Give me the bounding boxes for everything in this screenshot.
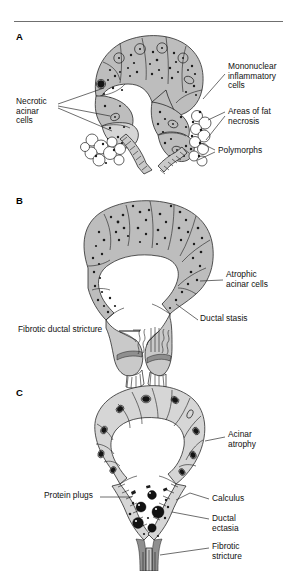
- panel-c-fibrotic-stricture: [136, 539, 162, 571]
- panel-letter-c: C: [16, 387, 23, 398]
- panel-c-acinar-ring: [95, 386, 205, 484]
- label-acinar-atrophy: Acinar atrophy: [228, 430, 290, 449]
- label-ductal-stasis: Ductal stasis: [200, 314, 290, 324]
- label-areas-of-fat-necrosis: Areas of fat necrosis: [228, 107, 292, 126]
- label-polymorphs: Polymorphs: [218, 146, 290, 156]
- panel-letter-a: A: [16, 31, 23, 42]
- panel-c-illustration: [95, 386, 225, 571]
- label-calculus: Calculus: [212, 494, 282, 504]
- panel-b-illustration: [84, 201, 223, 389]
- label-fibrotic-stricture: Fibrotic stricture: [212, 542, 272, 561]
- label-atrophic-acinar-cells: Atrophic acinar cells: [226, 270, 290, 289]
- label-fibrotic-ductal-stricture: Fibrotic ductal stricture: [18, 325, 122, 335]
- panel-letter-b: B: [16, 195, 23, 206]
- label-protein-plugs: Protein plugs: [44, 491, 104, 501]
- label-mononuclear-inflammatory-cells: Mononuclear inflammatory cells: [228, 62, 293, 91]
- label-ductal-ectasia: Ductal ectasia: [212, 514, 272, 533]
- panel-a-left-limb: [81, 96, 153, 174]
- panel-a-illustration: [58, 36, 225, 174]
- panel-b-acinar-ring: [84, 201, 213, 320]
- label-necrotic-acinar-cells: Necrotic acinar cells: [16, 97, 76, 126]
